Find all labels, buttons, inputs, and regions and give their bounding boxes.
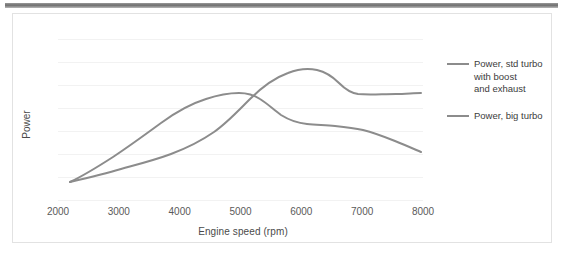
top-divider-rule bbox=[5, 3, 558, 8]
legend-label-line-1: Power, big turbo bbox=[474, 110, 553, 123]
x-tick-label: 8000 bbox=[400, 206, 446, 217]
x-tick-label: 4000 bbox=[157, 206, 203, 217]
x-tick-label: 2000 bbox=[35, 206, 81, 217]
legend-label-line-1: Power, std turbo bbox=[474, 58, 553, 71]
legend-item-std-turbo[interactable]: Power, std turbo with boost and exhaust bbox=[447, 58, 553, 96]
x-axis-tick-labels: 2000 3000 4000 5000 6000 7000 8000 bbox=[58, 206, 423, 222]
legend-line-swatch-icon bbox=[447, 63, 469, 65]
legend-item-label: Power, big turbo bbox=[474, 110, 553, 123]
x-tick-label: 3000 bbox=[96, 206, 142, 217]
x-tick-label: 5000 bbox=[218, 206, 264, 217]
gridlines bbox=[58, 40, 423, 201]
x-tick-label: 6000 bbox=[278, 206, 324, 217]
legend-line-swatch-icon bbox=[447, 115, 469, 117]
y-axis-title: Power bbox=[21, 95, 32, 155]
x-tick-label: 7000 bbox=[339, 206, 385, 217]
chart-container[interactable]: 2000 3000 4000 5000 6000 7000 8000 Engin… bbox=[12, 13, 552, 243]
legend-label-line-2: with boost bbox=[474, 71, 553, 84]
legend-item-label: Power, std turbo with boost and exhaust bbox=[474, 58, 553, 96]
screenshot-root: 2000 3000 4000 5000 6000 7000 8000 Engin… bbox=[0, 0, 565, 255]
x-axis-title: Engine speed (rpm) bbox=[53, 226, 433, 237]
legend-item-big-turbo[interactable]: Power, big turbo bbox=[447, 110, 553, 123]
plot-area: 2000 3000 4000 5000 6000 7000 8000 Engin… bbox=[13, 14, 553, 244]
chart-legend: Power, std turbo with boost and exhaust … bbox=[447, 58, 553, 136]
legend-label-line-3: and exhaust bbox=[474, 83, 553, 96]
